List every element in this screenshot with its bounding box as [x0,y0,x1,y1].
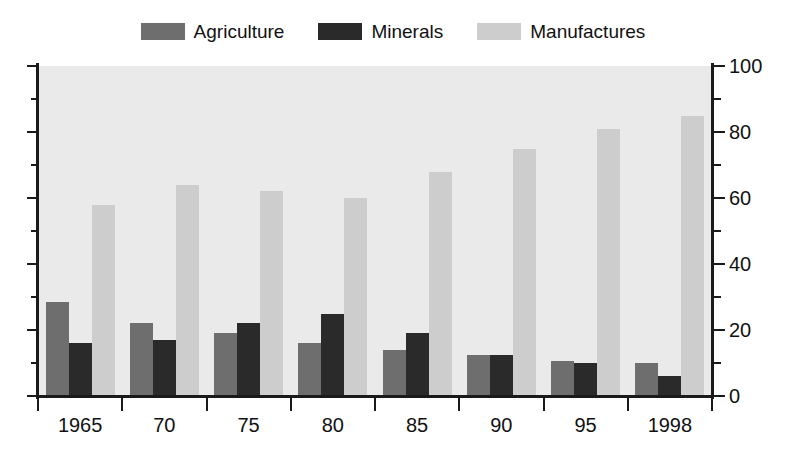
bar-chart: AgricultureMineralsManufactures 02040608… [0,0,786,458]
bar-agriculture-70[interactable] [130,323,153,396]
y-tick-right-40 [714,263,725,265]
y-tick-right-80 [714,131,725,133]
x-axis-label: 70 [122,414,206,436]
legend-item-minerals[interactable]: Minerals [318,22,443,41]
x-tick-1965 [121,398,123,411]
x-tick-70 [206,398,208,411]
y-axis-label: 100 [729,56,762,76]
legend-label: Manufactures [530,22,645,41]
y-axis-label: 80 [729,122,751,142]
bar-minerals-1965[interactable] [69,343,92,396]
chart-legend: AgricultureMineralsManufactures [0,18,786,44]
y-tick-right-20 [714,329,725,331]
legend-label: Agriculture [194,22,285,41]
y-tick-minor-right-10 [714,362,721,364]
x-tick-85 [458,398,460,411]
y-tick-minor-left-90 [31,98,38,100]
x-tick-90 [543,398,545,411]
x-tick-95 [627,398,629,411]
x-tick-edge-end [711,398,713,411]
bar-minerals-75[interactable] [237,323,260,396]
bar-manufactures-80[interactable] [344,198,367,396]
legend-swatch-minerals [318,23,362,40]
x-axis-label: 1965 [38,414,122,436]
x-axis-label: 75 [207,414,291,436]
legend-swatch-manufactures [477,23,521,40]
bar-minerals-70[interactable] [153,340,176,396]
bar-minerals-1998[interactable] [658,376,681,396]
bars-layer [38,66,712,396]
bar-minerals-85[interactable] [406,333,429,396]
y-tick-minor-left-70 [31,164,38,166]
y-tick-right-100 [714,65,725,67]
y-tick-left-40 [27,263,38,265]
y-tick-left-60 [27,197,38,199]
bar-agriculture-75[interactable] [214,333,237,396]
y-tick-minor-right-90 [714,98,721,100]
y-tick-minor-left-30 [31,296,38,298]
y-axis-label: 20 [729,320,751,340]
y-tick-left-0 [27,395,38,397]
bar-agriculture-95[interactable] [551,361,574,396]
bar-agriculture-80[interactable] [298,343,321,396]
x-tick-80 [374,398,376,411]
bar-minerals-95[interactable] [574,363,597,396]
y-axis-label: 40 [729,254,751,274]
y-tick-minor-right-70 [714,164,721,166]
legend-item-agriculture[interactable]: Agriculture [141,22,285,41]
y-axis-label: 60 [729,188,751,208]
bar-agriculture-1998[interactable] [635,363,658,396]
bar-manufactures-1965[interactable] [92,205,115,396]
x-axis-label: 95 [544,414,628,436]
bar-manufactures-1998[interactable] [681,116,704,397]
y-tick-left-100 [27,65,38,67]
y-tick-left-80 [27,131,38,133]
bar-agriculture-85[interactable] [383,350,406,396]
x-axis-label: 90 [459,414,543,436]
chart-title-cropped [0,0,786,6]
bar-manufactures-75[interactable] [260,191,283,396]
bar-manufactures-95[interactable] [597,129,620,396]
legend-item-manufactures[interactable]: Manufactures [477,22,645,41]
y-tick-minor-right-50 [714,230,721,232]
legend-swatch-agriculture [141,23,185,40]
x-axis-label: 80 [291,414,375,436]
bar-minerals-90[interactable] [490,355,513,396]
bar-agriculture-90[interactable] [467,355,490,396]
y-axis-label: 0 [729,386,740,406]
y-tick-minor-right-30 [714,296,721,298]
y-tick-minor-left-50 [31,230,38,232]
y-tick-minor-left-10 [31,362,38,364]
x-axis-label: 85 [375,414,459,436]
y-tick-right-60 [714,197,725,199]
x-axis-label: 1998 [628,414,712,436]
bar-manufactures-85[interactable] [429,172,452,396]
y-tick-right-0 [714,395,725,397]
legend-label: Minerals [371,22,443,41]
x-tick-75 [290,398,292,411]
x-tick-edge-start [37,398,39,411]
bar-agriculture-1965[interactable] [46,302,69,396]
y-tick-left-20 [27,329,38,331]
bar-manufactures-90[interactable] [513,149,536,397]
bar-manufactures-70[interactable] [176,185,199,396]
bar-minerals-80[interactable] [321,314,344,397]
